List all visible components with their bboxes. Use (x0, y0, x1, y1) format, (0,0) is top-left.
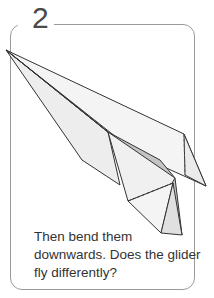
instruction-caption: Then bend them downwards. Does the glide… (34, 228, 204, 282)
